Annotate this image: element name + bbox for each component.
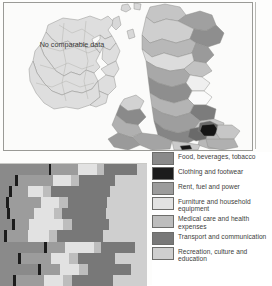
bar-segment bbox=[0, 186, 9, 197]
bar-segment bbox=[68, 197, 108, 208]
bar-segment bbox=[47, 242, 65, 253]
bar-segment bbox=[51, 186, 110, 197]
bar-segment bbox=[69, 253, 78, 264]
bar-segment bbox=[29, 219, 63, 230]
bar-segment bbox=[0, 275, 13, 286]
legend-item-transport[interactable]: Transport and communication bbox=[152, 232, 272, 245]
bar-segment bbox=[10, 208, 34, 219]
bar-segment bbox=[54, 208, 61, 219]
bar-row bbox=[0, 264, 147, 275]
bar-row bbox=[0, 242, 147, 253]
bar-segment bbox=[103, 230, 147, 241]
bar-segment bbox=[41, 264, 60, 275]
bar-segment bbox=[79, 175, 114, 186]
bar-segment bbox=[57, 230, 103, 241]
map-annotation-line1: No comparable data bbox=[40, 40, 105, 49]
legend-swatch-furniture bbox=[152, 197, 174, 210]
bar-segment bbox=[59, 197, 68, 208]
bar-segment bbox=[65, 242, 94, 253]
bar-segment bbox=[110, 186, 147, 197]
bar-segment bbox=[78, 164, 97, 175]
map-side-margin bbox=[255, 2, 272, 149]
legend-item-furniture[interactable]: Furniture and household equipment bbox=[152, 197, 272, 213]
bar-segment bbox=[41, 197, 59, 208]
bar-segment bbox=[28, 186, 43, 197]
bar-row bbox=[0, 219, 147, 230]
bar-segment bbox=[63, 275, 72, 286]
bar-segment bbox=[49, 230, 58, 241]
bar-row bbox=[0, 186, 147, 197]
bar-segment bbox=[0, 175, 15, 186]
bar-segment bbox=[71, 175, 80, 186]
bar-segment bbox=[72, 219, 109, 230]
bar-segment bbox=[0, 208, 7, 219]
legend-label-clothing: Clothing and footwear bbox=[178, 167, 243, 175]
bar-segment bbox=[0, 253, 18, 264]
bar-segment bbox=[0, 264, 38, 275]
legend-label-recreation: Recreation, culture and education bbox=[178, 247, 272, 263]
bar-segment bbox=[0, 164, 49, 175]
legend-swatch-rent bbox=[152, 182, 174, 195]
bar-segment bbox=[131, 264, 147, 275]
bar-segment bbox=[18, 175, 53, 186]
bar-segment bbox=[94, 242, 101, 253]
bar-segment bbox=[115, 175, 147, 186]
bar-segment bbox=[115, 253, 147, 264]
stacked-bar-chart bbox=[0, 163, 147, 286]
bar-segment bbox=[0, 242, 44, 253]
bar-segment bbox=[79, 264, 88, 275]
bar-segment bbox=[63, 219, 72, 230]
bar-row bbox=[0, 197, 147, 208]
bar-segment bbox=[107, 197, 147, 208]
bar-segment bbox=[62, 208, 106, 219]
uk-ireland-choropleth-map: No comparable data bbox=[4, 3, 252, 150]
bar-segment bbox=[101, 242, 135, 253]
region-london bbox=[200, 124, 218, 136]
bar-segment bbox=[12, 186, 28, 197]
bar-row bbox=[0, 164, 147, 175]
legend-item-food[interactable]: Food, beverages, tobacco bbox=[152, 152, 272, 165]
bar-segment bbox=[109, 219, 147, 230]
bar-segment bbox=[9, 197, 41, 208]
bar-row bbox=[0, 175, 147, 186]
legend-swatch-transport bbox=[152, 232, 174, 245]
bar-row bbox=[0, 253, 147, 264]
bar-segment bbox=[60, 264, 79, 275]
bar-segment bbox=[51, 164, 77, 175]
map-panel: No comparable data bbox=[3, 2, 253, 151]
bar-segment bbox=[15, 219, 30, 230]
legend-label-rent: Rent, fuel and power bbox=[178, 182, 240, 190]
bar-segment bbox=[53, 175, 71, 186]
bar-segment bbox=[78, 253, 115, 264]
legend-label-furniture: Furniture and household equipment bbox=[178, 197, 272, 213]
bar-segment bbox=[0, 219, 12, 230]
bar-segment bbox=[72, 275, 113, 286]
legend-item-rent[interactable]: Rent, fuel and power bbox=[152, 182, 272, 195]
bar-segment bbox=[43, 186, 52, 197]
legend: Food, beverages, tobacco Clothing and fo… bbox=[152, 152, 272, 285]
legend-item-medical[interactable]: Medical care and health expenses bbox=[152, 215, 272, 231]
bar-segment bbox=[44, 275, 63, 286]
legend-label-transport: Transport and communication bbox=[178, 232, 266, 240]
bar-segment bbox=[97, 164, 104, 175]
legend-swatch-medical bbox=[152, 215, 174, 228]
legend-label-medical: Medical care and health expenses bbox=[178, 215, 272, 231]
bar-segment bbox=[137, 164, 147, 175]
bar-segment bbox=[51, 253, 69, 264]
bar-row bbox=[0, 230, 147, 241]
legend-swatch-recreation bbox=[152, 247, 174, 260]
bar-segment bbox=[104, 164, 136, 175]
bar-segment bbox=[21, 253, 52, 264]
bar-segment bbox=[28, 230, 49, 241]
legend-item-recreation[interactable]: Recreation, culture and education bbox=[152, 247, 272, 263]
bar-segment bbox=[135, 242, 147, 253]
bar-row bbox=[0, 275, 147, 286]
legend-swatch-clothing bbox=[152, 167, 174, 180]
legend-item-clothing[interactable]: Clothing and footwear bbox=[152, 167, 272, 180]
legend-label-food: Food, beverages, tobacco bbox=[178, 152, 255, 160]
bar-segment bbox=[7, 230, 28, 241]
bar-segment bbox=[106, 208, 147, 219]
region-isle-of-wight bbox=[180, 145, 192, 150]
bar-segment bbox=[16, 275, 44, 286]
bar-row bbox=[0, 208, 147, 219]
